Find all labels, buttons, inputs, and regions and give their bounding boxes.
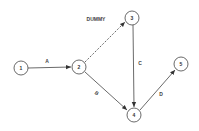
edge-label-b: B [94,90,101,97]
node-5: 5 [174,57,188,71]
edge-3-4 [133,25,134,107]
node-1: 1 [14,61,28,75]
svg-text:3: 3 [131,15,134,21]
edge-label-dummy: DUMMY [87,16,107,22]
node-4: 4 [127,108,141,122]
edge-label-d: D [159,91,163,97]
edge-2-3-dummy [85,22,125,62]
svg-text:5: 5 [180,61,183,67]
edge-2-4 [85,72,127,110]
edge-1-2 [28,67,71,68]
edge-label-c: C [138,60,142,66]
svg-text:4: 4 [133,112,136,118]
node-3: 3 [125,11,139,25]
network-diagram: A DUMMY C B D 1 2 3 4 5 [0,0,199,131]
svg-text:1: 1 [20,65,23,71]
edge-4-5 [140,70,175,110]
node-2: 2 [72,60,86,74]
svg-text:2: 2 [78,64,81,70]
edge-label-a: A [45,58,49,64]
